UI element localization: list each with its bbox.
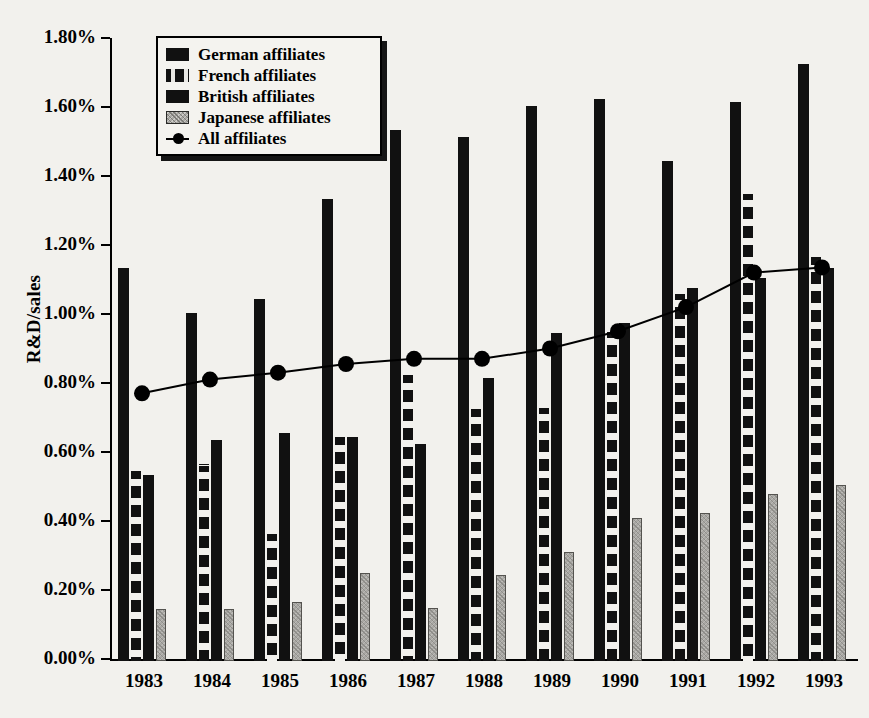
legend-item-label: Japanese affiliates — [198, 108, 331, 128]
y-tick-label: 1.20% — [8, 233, 96, 255]
bar-british-1986 — [347, 437, 358, 661]
x-tick-label-1987: 1987 — [382, 670, 450, 692]
bar-japanese-1986 — [360, 573, 371, 661]
bar-japanese-1991 — [700, 513, 711, 661]
y-tick-label: 1.60% — [8, 95, 96, 117]
bar-german-1984 — [186, 313, 197, 661]
legend-item-label: British affiliates — [198, 87, 315, 107]
bar-british-1983 — [143, 475, 154, 661]
y-tick-1.00 — [101, 313, 110, 315]
legend-swatch-icon — [166, 132, 189, 145]
bar-japanese-1985 — [292, 602, 303, 661]
bar-british-1987 — [415, 444, 426, 661]
bar-group-1991 — [654, 38, 722, 661]
legend-item-british: British affiliates — [166, 86, 372, 107]
legend-item-label: French affiliates — [198, 66, 316, 86]
bar-british-1984 — [211, 440, 222, 661]
bar-french-1986 — [335, 437, 346, 661]
bar-french-1993 — [811, 257, 822, 661]
y-tick-label: 1.80% — [8, 26, 96, 48]
y-tick-label: 1.00% — [8, 302, 96, 324]
bar-japanese-1984 — [224, 609, 235, 661]
bar-japanese-1988 — [496, 575, 507, 661]
bar-french-1985 — [267, 533, 278, 661]
y-tick-0.60 — [101, 451, 110, 453]
bar-german-1983 — [118, 268, 129, 661]
bar-german-1992 — [730, 102, 741, 661]
y-tick-1.60 — [101, 106, 110, 108]
y-tick-0.00 — [101, 658, 110, 660]
y-tick-1.20 — [101, 244, 110, 246]
bar-group-1993 — [790, 38, 858, 661]
bar-japanese-1993 — [836, 485, 847, 661]
x-tick-label-1984: 1984 — [178, 670, 246, 692]
legend-item-german: German affiliates — [166, 44, 372, 65]
bar-french-1984 — [199, 464, 210, 661]
bar-german-1988 — [458, 137, 469, 661]
bar-british-1993 — [823, 268, 834, 661]
legend-item-label: All affiliates — [198, 129, 286, 149]
bar-japanese-1992 — [768, 494, 779, 661]
chart-legend: German affiliatesFrench affiliatesBritis… — [156, 36, 382, 156]
bar-japanese-1989 — [564, 552, 575, 661]
bar-group-1988 — [450, 38, 518, 661]
bar-french-1987 — [403, 375, 414, 661]
bar-french-1992 — [743, 192, 754, 661]
bar-group-1987 — [382, 38, 450, 661]
bar-french-1983 — [131, 471, 142, 661]
y-tick-label: 0.80% — [8, 371, 96, 393]
bar-group-1989 — [518, 38, 586, 661]
bar-japanese-1990 — [632, 518, 643, 661]
legend-swatch-icon — [166, 69, 189, 82]
x-tick-label-1991: 1991 — [654, 670, 722, 692]
bar-british-1992 — [755, 278, 766, 661]
y-tick-label: 1.40% — [8, 164, 96, 186]
bar-japanese-1983 — [156, 609, 167, 661]
x-tick-label-1983: 1983 — [110, 670, 178, 692]
bar-group-1992 — [722, 38, 790, 661]
bar-british-1985 — [279, 433, 290, 661]
bar-german-1987 — [390, 130, 401, 661]
bar-japanese-1987 — [428, 608, 439, 661]
y-tick-label: 0.60% — [8, 440, 96, 462]
bar-german-1985 — [254, 299, 265, 661]
legend-item-all: All affiliates — [166, 128, 372, 149]
x-tick-label-1986: 1986 — [314, 670, 382, 692]
y-tick-0.20 — [101, 589, 110, 591]
y-tick-1.80 — [101, 37, 110, 39]
legend-swatch-icon — [166, 90, 189, 103]
bar-british-1989 — [551, 333, 562, 661]
x-tick-label-1993: 1993 — [790, 670, 858, 692]
bar-german-1989 — [526, 106, 537, 661]
y-tick-0.40 — [101, 520, 110, 522]
y-tick-label: 0.20% — [8, 578, 96, 600]
x-tick-label-1985: 1985 — [246, 670, 314, 692]
bar-french-1990 — [607, 330, 618, 661]
x-tick-label-1992: 1992 — [722, 670, 790, 692]
bar-british-1991 — [687, 288, 698, 661]
chart-canvas: R&D/sales 198319841985198619871988198919… — [0, 0, 869, 718]
y-tick-label: 0.00% — [8, 647, 96, 669]
legend-item-label: German affiliates — [198, 45, 325, 65]
bar-german-1993 — [798, 64, 809, 661]
bar-german-1986 — [322, 199, 333, 661]
legend-item-japanese: Japanese affiliates — [166, 107, 372, 128]
y-tick-label: 0.40% — [8, 509, 96, 531]
legend-swatch-icon — [166, 48, 189, 61]
legend-item-french: French affiliates — [166, 65, 372, 86]
bar-british-1988 — [483, 378, 494, 661]
bar-french-1988 — [471, 409, 482, 661]
x-tick-label-1989: 1989 — [518, 670, 586, 692]
x-tick-label-1990: 1990 — [586, 670, 654, 692]
bar-french-1989 — [539, 406, 550, 661]
x-tick-label-1988: 1988 — [450, 670, 518, 692]
bar-german-1991 — [662, 161, 673, 661]
bar-german-1990 — [594, 99, 605, 661]
y-tick-0.80 — [101, 382, 110, 384]
bar-french-1991 — [675, 292, 686, 661]
bar-group-1990 — [586, 38, 654, 661]
legend-swatch-icon — [166, 111, 189, 124]
bar-british-1990 — [619, 323, 630, 661]
y-tick-1.40 — [101, 175, 110, 177]
